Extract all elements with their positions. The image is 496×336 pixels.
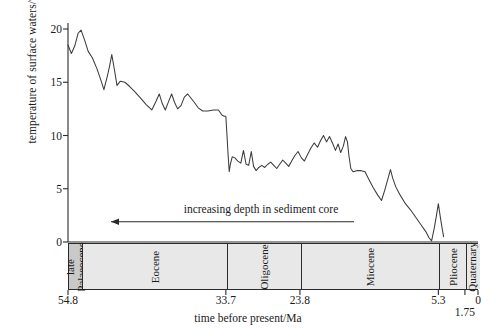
epoch-label: Eocene <box>150 250 162 282</box>
epoch-cell-pliocene: Pliocene <box>439 244 467 289</box>
epoch-bar: latePalaeoceneEoceneOligoceneMiocenePlio… <box>68 243 478 290</box>
epoch-cell-quaternary: Quaternary <box>466 244 480 289</box>
epoch-label: Pliocene <box>448 248 460 286</box>
sediment-depth-annotation: increasing depth in sediment core <box>184 203 339 215</box>
epoch-cell-oligocene: Oligocene <box>227 244 302 289</box>
x-axis-title: time before present/Ma <box>0 312 496 324</box>
annotation-arrow-head <box>111 219 119 225</box>
epoch-cell-eocene: Eocene <box>82 244 227 289</box>
chart-figure: temperature of surface waters/°C 0510152… <box>0 0 496 336</box>
epoch-label: Quaternary <box>468 242 480 291</box>
epoch-label: Oligocene <box>259 244 271 289</box>
epoch-cell-late-palaeocene: latePalaeocene <box>69 244 82 289</box>
epoch-cell-miocene: Miocene <box>301 244 440 289</box>
epoch-label: Miocene <box>365 247 377 285</box>
